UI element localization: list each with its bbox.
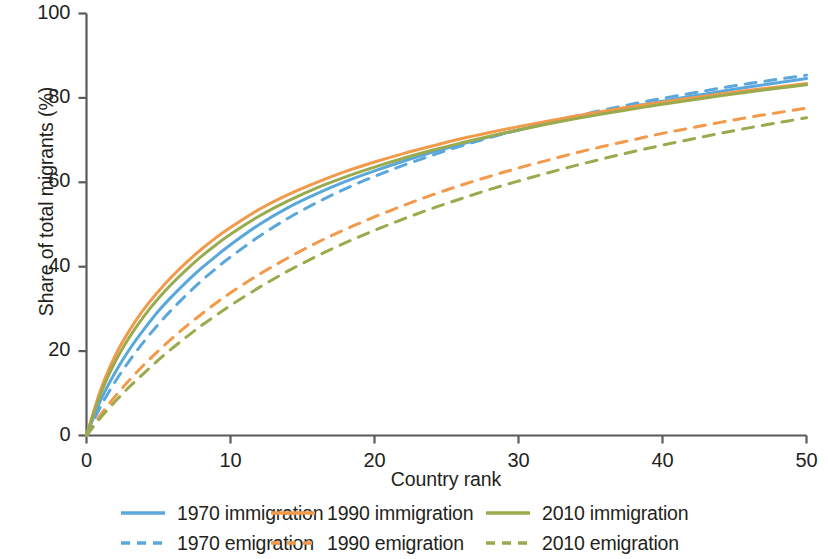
y-tick-label: 100: [11, 1, 71, 24]
legend-swatch-line-icon: [485, 505, 531, 521]
legend-label: 1990 emigration: [327, 532, 464, 555]
legend-swatch-line-icon: [270, 505, 316, 521]
legend-label: 2010 immigration: [542, 502, 688, 525]
chart-legend: 1970 immigration 1990 immigration 2010 i…: [0, 498, 828, 559]
legend-swatch-dashed-line-icon: [120, 535, 166, 551]
legend-row-immigration: 1970 immigration 1990 immigration 2010 i…: [0, 498, 828, 528]
legend-item-2010-immigration[interactable]: 2010 immigration: [485, 498, 725, 528]
legend-item-1970-emigration[interactable]: 1970 emigration: [0, 528, 270, 558]
y-tick-label: 40: [11, 254, 71, 277]
x-tick-label: 50: [777, 449, 828, 472]
series-line-2010-immigration: [87, 85, 807, 436]
x-tick-label: 40: [633, 449, 693, 472]
x-tick-label: 0: [57, 449, 117, 472]
figure: Share of total migrants (%) Country rank…: [0, 0, 828, 559]
legend-swatch-line-icon: [120, 505, 166, 521]
series-line-1990-immigration: [87, 84, 807, 436]
legend-item-2010-emigration[interactable]: 2010 emigration: [485, 528, 725, 558]
series-line-1990-emigration: [87, 108, 807, 435]
y-tick-label: 20: [11, 338, 71, 361]
legend-item-1990-immigration[interactable]: 1990 immigration: [270, 498, 485, 528]
x-tick-label: 20: [345, 449, 405, 472]
y-tick-label: 0: [11, 423, 71, 446]
series-line-2010-emigration: [87, 118, 807, 436]
x-tick-label: 10: [201, 449, 261, 472]
y-tick-label: 60: [11, 169, 71, 192]
x-tick-label: 30: [489, 449, 549, 472]
legend-item-1990-emigration[interactable]: 1990 emigration: [270, 528, 485, 558]
legend-swatch-dashed-line-icon: [270, 535, 316, 551]
legend-swatch-dashed-line-icon: [485, 535, 531, 551]
legend-row-emigration: 1970 emigration 1990 emigration 2010 emi…: [0, 528, 828, 558]
x-axis-label: Country rank: [86, 468, 806, 491]
y-tick-label: 80: [11, 85, 71, 108]
legend-label: 1990 immigration: [327, 502, 473, 525]
legend-item-1970-immigration[interactable]: 1970 immigration: [0, 498, 270, 528]
legend-label: 2010 emigration: [542, 532, 679, 555]
